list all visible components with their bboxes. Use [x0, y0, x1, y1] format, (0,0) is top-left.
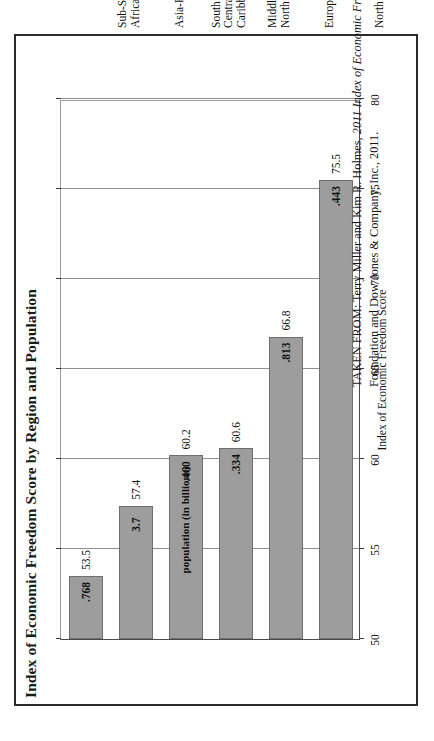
category-label-line: Sub-Saharan [116, 0, 129, 28]
bar-row: .76853.5 [69, 99, 103, 639]
source-prefix: TAKEN FROM: Terry Miller and Kim R. Holm… [350, 134, 364, 387]
score-value-label: 57.4 [130, 480, 142, 500]
population-value-label: .334 [230, 454, 242, 474]
tick-mark [56, 98, 61, 99]
population-value-label: 3.7 [130, 517, 142, 531]
bar-europe[interactable] [269, 337, 303, 639]
bar-row: .33460.6 [219, 99, 253, 639]
category-label-line: Europe [323, 0, 336, 28]
bar-row: 3.757.4 [119, 99, 153, 639]
gridline [61, 188, 359, 189]
category-label-line: Asia-Pacific [173, 0, 186, 28]
tick-mark [56, 638, 61, 639]
category-label-line: Central America/ [222, 0, 235, 28]
tick-mark [56, 548, 61, 549]
plot-area-wrapper: .76853.53.757.4.46060.2.33460.6.81366.8.… [60, 100, 360, 640]
tick-mark [56, 368, 61, 369]
source-title: 2011 Index of Economic Freedom. [350, 0, 364, 134]
population-annotation: population (in billions) [179, 466, 191, 573]
gridline [61, 98, 359, 99]
category-label-line: North Africa [279, 0, 292, 28]
category-label: South andCentral America/Caribbean [210, 0, 249, 28]
tick-mark [56, 458, 61, 459]
category-label-line: South and [210, 0, 223, 28]
score-value-label: 53.5 [80, 550, 92, 570]
score-value-label: 60.6 [230, 422, 242, 442]
population-value-label: .768 [80, 582, 92, 602]
tick-mark [56, 188, 61, 189]
bar-row: .81366.8 [269, 99, 303, 639]
category-label: Europe [323, 0, 336, 28]
source-note-wrapper: TAKEN FROM: Terry Miller and Kim R. Holm… [330, 34, 402, 706]
gridline [61, 548, 359, 549]
gridline [61, 278, 359, 279]
category-label: Asia-Pacific [173, 0, 186, 28]
tick-mark [56, 278, 61, 279]
gridline [61, 368, 359, 369]
category-label-line: Middle East/ [266, 0, 279, 28]
category-label: Middle East/North Africa [266, 0, 292, 28]
source-citation: TAKEN FROM: Terry Miller and Kim R. Holm… [349, 0, 383, 387]
score-value-label: 60.2 [180, 429, 192, 449]
bar-middle-east-north-africa[interactable] [219, 448, 253, 639]
score-value-label: 66.8 [280, 310, 292, 330]
category-label: Sub-SaharanAfrica [116, 0, 142, 28]
population-value-label: .813 [280, 342, 292, 362]
category-label-line: Caribbean [235, 0, 248, 28]
category-label-line: Africa [129, 0, 142, 28]
gridline [61, 458, 359, 459]
plot-area: .76853.53.757.4.46060.2.33460.6.81366.8.… [60, 100, 360, 640]
page-title: Index of Economic Freedom Score by Regio… [22, 278, 40, 698]
